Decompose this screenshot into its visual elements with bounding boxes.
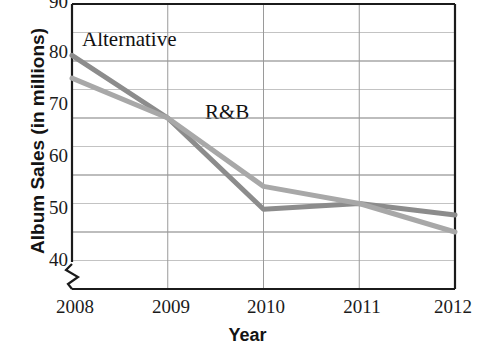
plot-area <box>0 0 477 357</box>
album-sales-line-chart: Album Sales (in millions) 90 80 70 60 50… <box>0 0 477 357</box>
y-axis-break-icon <box>66 264 78 289</box>
